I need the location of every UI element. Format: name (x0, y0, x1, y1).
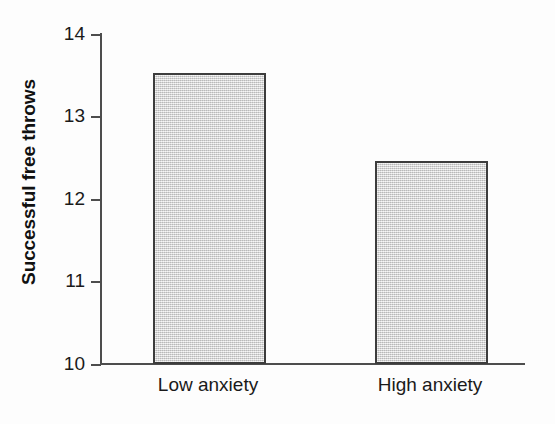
x-category-label-low-anxiety: Low anxiety (129, 374, 287, 397)
bar-high-anxiety (375, 161, 488, 364)
bar-chart: Successful free throws 14 13 12 11 10 Lo… (0, 0, 555, 424)
y-tick-label: 11 (45, 271, 85, 290)
y-tick-mark-icon (91, 116, 101, 118)
y-tick-label: 13 (45, 106, 85, 125)
plot-area (102, 33, 525, 364)
y-axis-title: Successful free throws (14, 0, 44, 364)
y-tick-label: 14 (45, 24, 85, 43)
y-tick-mark-icon (91, 364, 101, 366)
bar-low-anxiety (153, 73, 266, 364)
y-tick-mark-icon (91, 281, 101, 283)
y-tick-label: 10 (45, 354, 85, 373)
y-tick-mark-icon (91, 34, 101, 36)
y-tick-mark-icon (91, 199, 101, 201)
x-category-label-high-anxiety: High anxiety (351, 374, 509, 397)
y-tick-label: 12 (45, 189, 85, 208)
